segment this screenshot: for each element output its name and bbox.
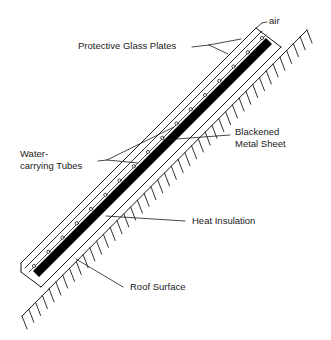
label-protective-glass-plates: Protective Glass Plates bbox=[78, 40, 176, 51]
label-air: air bbox=[269, 15, 280, 26]
label-blackened-metal-sheet-line1: Blackened bbox=[235, 126, 279, 137]
blackened-metal-sheet bbox=[33, 38, 272, 277]
outer-glass-plate bbox=[21, 28, 256, 263]
label-heat-insulation: Heat Insulation bbox=[192, 215, 255, 226]
label-roof-surface: Roof Surface bbox=[130, 281, 185, 292]
label-blackened-metal-sheet-line2: Metal Sheet bbox=[235, 138, 286, 149]
label-water-tubes-line2: carrying Tubes bbox=[20, 160, 82, 171]
leader-lines bbox=[76, 22, 267, 287]
label-water-tubes-line1: Water- bbox=[20, 148, 48, 159]
water-tubes bbox=[32, 36, 263, 267]
collector-panel bbox=[21, 28, 281, 287]
roof-surface-line bbox=[22, 30, 307, 316]
inner-glass-plate bbox=[25, 31, 262, 268]
